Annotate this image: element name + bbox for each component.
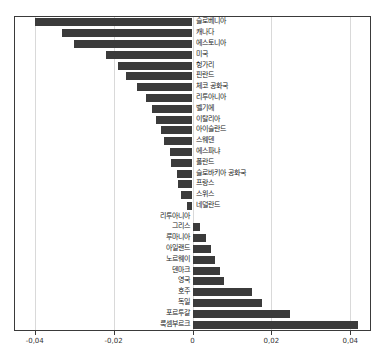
bar-row[interactable]: 에스파냐	[15, 147, 370, 157]
bar[interactable]	[118, 62, 193, 70]
bar[interactable]	[35, 18, 193, 26]
bar-row[interactable]: 이탈리아	[15, 115, 370, 125]
bar-row[interactable]: 스웨덴	[15, 136, 370, 146]
bar-row[interactable]: 호주	[15, 287, 370, 297]
bar-row[interactable]: 덴마크	[15, 266, 370, 276]
bar-category-label: 핀란드	[196, 70, 214, 80]
bar-category-label: 미국	[196, 49, 208, 59]
bar[interactable]	[164, 137, 192, 145]
bar-row[interactable]: 프랑스	[15, 179, 370, 189]
bar-category-label: 루마니아	[166, 232, 190, 242]
bar-row[interactable]: 미국	[15, 50, 370, 60]
bar-row[interactable]: 리투아니아	[15, 212, 370, 222]
bar-category-label: 영국	[178, 275, 190, 285]
x-tick	[350, 331, 351, 335]
bar[interactable]	[193, 321, 359, 329]
bar-category-label: 그리스	[172, 221, 190, 231]
bar[interactable]	[193, 245, 212, 253]
bar[interactable]	[193, 256, 216, 264]
bars-container: 슬로베니아캐나다에스토니아미국헝가리핀란드체코 공화국리투아니아벨기에이탈리아아…	[15, 17, 370, 330]
bar-category-label: 리투아니아	[160, 211, 190, 221]
bar[interactable]	[170, 148, 193, 156]
bar-category-label: 체코 공화국	[196, 81, 228, 91]
bar[interactable]	[106, 51, 193, 59]
bar-row[interactable]: 체코 공화국	[15, 82, 370, 92]
x-tick-label: -0,02	[105, 337, 123, 345]
bar-category-label: 독일	[178, 297, 190, 307]
bar-category-label: 포르투갈	[166, 308, 190, 318]
bar[interactable]	[181, 191, 193, 199]
x-tick-label: -0,04	[26, 337, 44, 345]
plot-area: 슬로베니아캐나다에스토니아미국헝가리핀란드체코 공화국리투아니아벨기에이탈리아아…	[14, 16, 371, 331]
bar-category-label: 에스토니아	[196, 38, 226, 48]
bar-chart-figure: 슬로베니아캐나다에스토니아미국헝가리핀란드체코 공화국리투아니아벨기에이탈리아아…	[0, 0, 385, 364]
bar-row[interactable]: 캐나다	[15, 28, 370, 38]
bar-category-label: 프랑스	[196, 178, 214, 188]
bar-row[interactable]: 영국	[15, 276, 370, 286]
bar-category-label: 호주	[178, 286, 190, 296]
bar[interactable]	[146, 94, 193, 102]
bar-category-label: 아이슬란드	[196, 124, 226, 134]
bar[interactable]	[152, 105, 193, 113]
x-tick	[271, 331, 272, 335]
bar-category-label: 네덜란드	[196, 200, 220, 210]
bar[interactable]	[193, 267, 221, 275]
bar-category-label: 스웨덴	[196, 135, 214, 145]
bar[interactable]	[187, 202, 192, 210]
x-tick-label: 0,02	[264, 337, 280, 345]
bar[interactable]	[126, 72, 192, 80]
bar[interactable]	[171, 159, 193, 167]
bar-category-label: 캐나다	[196, 27, 214, 37]
bar[interactable]	[177, 170, 193, 178]
x-tick-label: 0	[190, 337, 194, 345]
bar[interactable]	[74, 40, 192, 48]
x-tick	[114, 331, 115, 335]
x-tick	[35, 331, 36, 335]
bar[interactable]	[156, 116, 192, 124]
bar-category-label: 룩셈부르크	[160, 319, 190, 329]
bar-category-label: 스위스	[196, 189, 214, 199]
bar[interactable]	[178, 180, 193, 188]
bar[interactable]	[193, 310, 291, 318]
bar[interactable]	[193, 288, 252, 296]
bar-category-label: 헝가리	[196, 60, 214, 70]
bar-category-label: 덴마크	[172, 265, 190, 275]
bar-row[interactable]: 헝가리	[15, 61, 370, 71]
bar-category-label: 에스파냐	[196, 146, 220, 156]
bar-row[interactable]: 룩셈부르크	[15, 320, 370, 330]
bar-row[interactable]: 슬로바키아 공화국	[15, 169, 370, 179]
bar-row[interactable]: 그리스	[15, 222, 370, 232]
bar-row[interactable]: 벨기에	[15, 104, 370, 114]
bar-row[interactable]: 스위스	[15, 190, 370, 200]
x-tick	[193, 331, 194, 335]
bar-row[interactable]: 노르웨이	[15, 255, 370, 265]
bar-category-label: 노르웨이	[166, 254, 190, 264]
bar[interactable]	[137, 83, 192, 91]
bar-row[interactable]: 독일	[15, 298, 370, 308]
x-axis: -0,04-0,0200,020,04	[14, 331, 371, 361]
bar-category-label: 슬로바키아 공화국	[196, 168, 246, 178]
bar[interactable]	[193, 223, 200, 231]
bar-category-label: 슬로베니아	[196, 16, 226, 26]
bar-row[interactable]: 핀란드	[15, 71, 370, 81]
bar[interactable]	[193, 234, 206, 242]
bar-row[interactable]: 리투아니아	[15, 93, 370, 103]
bar-row[interactable]: 포르투갈	[15, 309, 370, 319]
bar-row[interactable]: 루마니아	[15, 233, 370, 243]
bar[interactable]	[193, 299, 262, 307]
bar-row[interactable]: 슬로베니아	[15, 17, 370, 27]
bar[interactable]	[161, 126, 193, 134]
bar-category-label: 이탈리아	[196, 114, 220, 124]
bar-row[interactable]: 폴란드	[15, 158, 370, 168]
bar[interactable]	[62, 29, 192, 37]
bar-category-label: 폴란드	[196, 157, 214, 167]
bar-category-label: 아일랜드	[166, 243, 190, 253]
bar-row[interactable]: 네덜란드	[15, 201, 370, 211]
bar[interactable]	[193, 277, 225, 285]
bar-row[interactable]: 아일랜드	[15, 244, 370, 254]
bar-category-label: 리투아니아	[196, 92, 226, 102]
bar-row[interactable]: 아이슬란드	[15, 125, 370, 135]
bar-category-label: 벨기에	[196, 103, 214, 113]
bar-row[interactable]: 에스토니아	[15, 39, 370, 49]
x-tick-label: 0,04	[342, 337, 358, 345]
